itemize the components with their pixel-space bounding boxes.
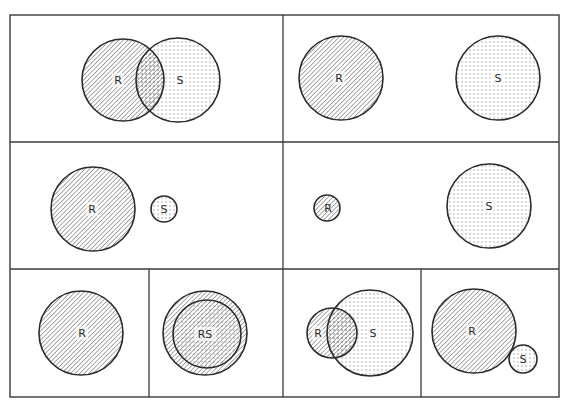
label-s: S (161, 203, 168, 216)
label-s: S (520, 353, 527, 366)
panel-overlap: R S (82, 38, 220, 122)
label-r: R (114, 74, 122, 87)
label-r: R (78, 327, 86, 340)
label-s: S (495, 72, 502, 85)
panel-disjoint-s-larger: R S (314, 164, 531, 248)
label-s: S (370, 327, 377, 340)
label-r: R (468, 325, 476, 338)
panel-disjoint-r-larger: R S (51, 167, 177, 251)
label-r: R (335, 72, 343, 85)
label-s: S (486, 200, 493, 213)
panel-disjoint-equal: R S (299, 36, 540, 120)
panel-s-inside-r: RS (163, 291, 247, 375)
panel-externally-tangent: R S (432, 289, 537, 373)
panel-single-r: R (39, 291, 123, 375)
label-r: R (314, 327, 322, 340)
relations-diagram: R S R S R S R S R RS (0, 0, 568, 401)
label-r: R (88, 203, 96, 216)
label-rs: RS (198, 328, 213, 341)
label-s: S (177, 74, 184, 87)
label-r: R (324, 202, 332, 215)
panel-r-partly-inside-s: R S (307, 290, 413, 376)
